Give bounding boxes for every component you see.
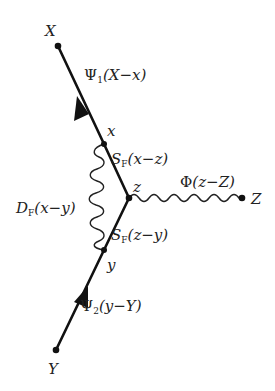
df-photon-line: [89, 144, 104, 250]
label-x: x: [107, 122, 116, 140]
label-df: DF(x−y): [15, 199, 76, 218]
label-Z: Z: [250, 190, 262, 208]
label-psi2: Ψ2(y−Y): [80, 297, 142, 316]
label-Y: Y: [48, 360, 60, 378]
vertex-z-dot: [126, 195, 133, 202]
point-X-dot: [55, 43, 62, 50]
label-z: z: [132, 178, 141, 196]
label-phi: Φ(z−Z): [180, 173, 235, 191]
label-X: X: [44, 22, 57, 40]
label-sf-xz: SF(x−z): [111, 150, 168, 169]
phi-boson-line: [129, 195, 242, 202]
vertex-x-dot: [101, 141, 107, 147]
point-Z-dot: [239, 195, 246, 202]
label-y: y: [106, 256, 116, 274]
point-Y-dot: [53, 347, 60, 354]
feynman-diagram: X x z y Y Z Ψ1(X−x) SF(x−z) Φ(z−Z) DF(x−…: [0, 0, 275, 391]
vertex-y-dot: [101, 247, 107, 253]
label-psi1: Ψ1(X−x): [84, 66, 146, 85]
label-sf-zy: SF(z−y): [111, 226, 168, 245]
psi1-line: [58, 46, 104, 144]
